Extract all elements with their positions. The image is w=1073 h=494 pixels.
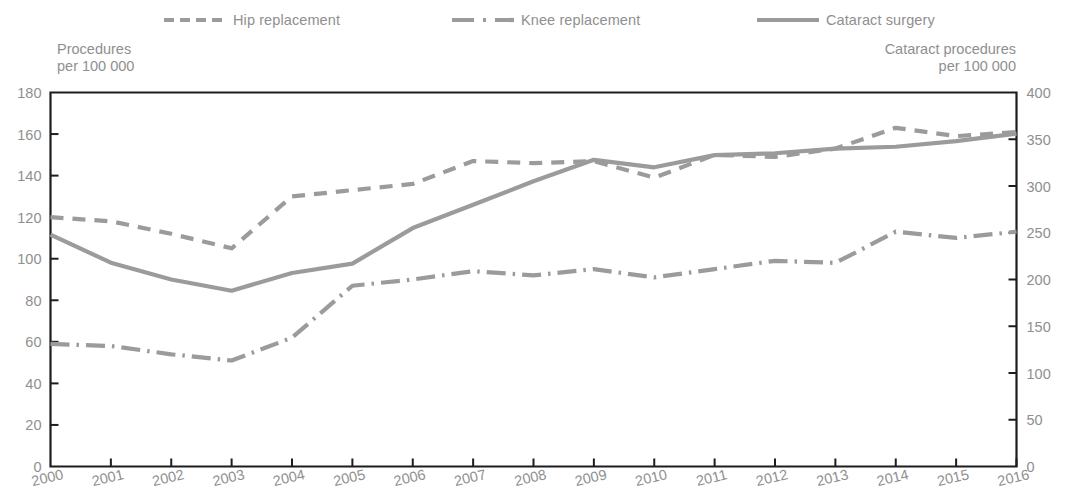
y2-axis-tick-label: 350: [1027, 132, 1051, 148]
x-axis-tick-label: 2011: [695, 466, 729, 489]
y-axis-tick-label: 120: [17, 210, 41, 226]
x-axis-tick-label: 2007: [452, 466, 487, 489]
y-axis-tick-label: 140: [17, 168, 41, 184]
line-chart: 0204060801001201401601800501001502002503…: [0, 0, 1073, 494]
x-axis-tick-label: 2001: [90, 466, 125, 489]
y-axis-tick-label: 20: [25, 417, 41, 433]
x-axis-tick-label: 2002: [151, 466, 186, 489]
x-axis-tick-label: 2015: [935, 466, 970, 489]
chart-plot-area: 0204060801001201401601800501001502002503…: [0, 0, 1073, 494]
y-axis-tick-label: 60: [25, 334, 41, 350]
chart-page: Hip replacement Knee replacement Catarac…: [0, 0, 1073, 494]
y-axis-tick-label: 160: [17, 127, 41, 143]
series-line-cataract-surgery: [51, 134, 1017, 291]
y2-axis-tick-label: 300: [1027, 179, 1051, 195]
y-axis-tick-label: 100: [17, 251, 41, 267]
x-axis-tick-label: 2016: [996, 466, 1031, 489]
x-axis-tick-label: 2012: [754, 466, 789, 489]
x-axis-tick-label: 2013: [815, 466, 850, 489]
x-axis-tick-label: 2004: [271, 466, 306, 489]
x-axis-tick-label: 2003: [211, 466, 246, 489]
x-axis-tick-label: 2006: [392, 466, 427, 489]
y-axis-tick-label: 40: [25, 376, 41, 392]
y2-axis-tick-label: 250: [1027, 225, 1051, 241]
y2-axis-tick-label: 100: [1027, 366, 1051, 382]
y-axis-tick-label: 80: [25, 293, 41, 309]
x-axis-tick-label: 2009: [573, 466, 608, 489]
x-axis-tick-label: 2005: [332, 466, 367, 489]
y2-axis-tick-label: 400: [1027, 85, 1051, 101]
x-axis-tick-label: 2010: [634, 466, 669, 489]
y2-axis-tick-label: 150: [1027, 319, 1051, 335]
x-axis-tick-label: 2008: [513, 466, 548, 489]
y2-axis-tick-label: 200: [1027, 272, 1051, 288]
series-line-knee-replacement: [51, 232, 1017, 361]
y-axis-tick-label: 180: [17, 85, 41, 101]
x-axis-tick-label: 2014: [875, 466, 910, 489]
y2-axis-tick-label: 50: [1027, 412, 1043, 428]
